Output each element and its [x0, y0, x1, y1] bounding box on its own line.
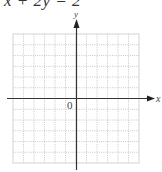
y-axis-label: y — [73, 9, 78, 19]
x-axis-arrow-icon — [147, 96, 155, 102]
coordinate-grid: x y 0 — [0, 0, 162, 172]
origin-label: 0 — [67, 99, 73, 111]
x-axis-label: x — [155, 93, 161, 104]
y-axis-arrow-icon — [74, 19, 80, 28]
